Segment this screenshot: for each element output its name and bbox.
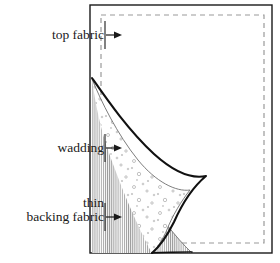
label-backing-fabric-line1: thin [83, 195, 104, 210]
label-wadding: wadding [58, 140, 105, 155]
quilting-cross-section-diagram: top fabric wadding thin backing fabric [0, 0, 280, 263]
label-backing-fabric-line2: backing fabric [26, 209, 104, 224]
label-top-fabric: top fabric [52, 27, 104, 42]
